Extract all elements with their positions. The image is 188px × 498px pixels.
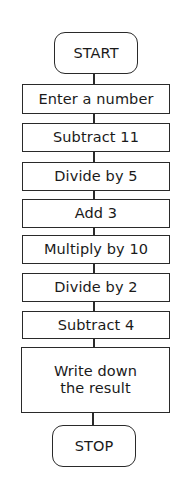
connector	[93, 152, 95, 162]
step-label: Multiply by 10	[44, 241, 148, 258]
connector	[93, 228, 95, 235]
step-label: Add 3	[75, 205, 117, 222]
connector	[93, 264, 95, 273]
step-label: Divide by 2	[54, 279, 137, 296]
step-label: Subtract 4	[58, 317, 135, 334]
start-label: START	[73, 45, 118, 62]
step-subtract-11: Subtract 11	[22, 123, 170, 152]
step-label: Write down the result	[44, 363, 147, 397]
connector	[93, 114, 95, 123]
stop-label: STOP	[75, 438, 114, 455]
step-label: Subtract 11	[53, 129, 139, 146]
connector	[93, 302, 95, 311]
stop-terminal: STOP	[52, 425, 136, 467]
step-divide-by-2: Divide by 2	[22, 273, 170, 302]
step-enter-number: Enter a number	[22, 84, 170, 114]
step-divide-by-5: Divide by 5	[22, 162, 170, 191]
step-write-result: Write down the result	[21, 347, 170, 413]
connector	[92, 413, 94, 425]
connector	[93, 339, 95, 347]
connector	[93, 191, 95, 199]
step-label: Divide by 5	[54, 168, 137, 185]
connector	[93, 74, 95, 84]
step-multiply-by-10: Multiply by 10	[22, 235, 170, 264]
step-add-3: Add 3	[22, 199, 170, 228]
step-label: Enter a number	[38, 91, 153, 108]
step-subtract-4: Subtract 4	[22, 311, 170, 339]
start-terminal: START	[54, 32, 138, 74]
